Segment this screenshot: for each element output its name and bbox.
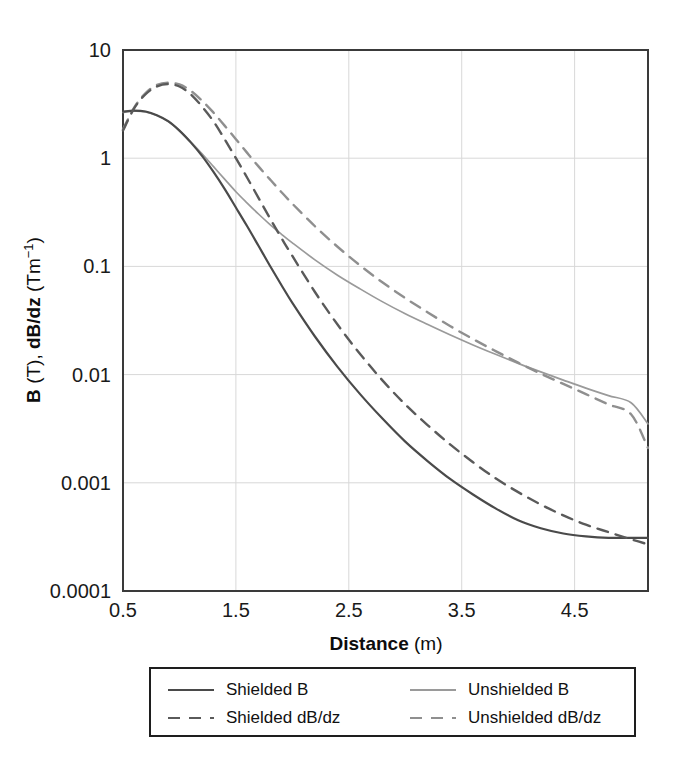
x-axis-title: Distance (m) [330,633,443,654]
x-title-distance: Distance [330,633,409,654]
legend-label: Unshielded dB/dz [468,708,601,727]
legend-label: Unshielded B [468,680,569,699]
x-tick-label: 2.5 [335,599,363,621]
y-title-unit-tm: (Tm [23,258,44,297]
svg-text:B (T), dB/dz (Tm−1): B (T), dB/dz (Tm−1) [21,237,45,403]
x-tick-label: 1.5 [222,599,250,621]
y-title-unit-t: (T), [23,349,44,389]
y-tick-label: 0.01 [72,364,111,386]
y-tick-label: 1 [100,147,111,169]
figure-container: 1010.10.010.0010.0001 0.51.52.53.54.5 B … [0,0,679,771]
y-axis-title: B (T), dB/dz (Tm−1) [21,237,45,403]
legend-label: Shielded B [226,680,308,699]
x-title-unit: (m) [414,633,442,654]
x-tick-label: 0.5 [109,599,137,621]
y-tick-label: 0.001 [61,472,111,494]
y-title-b: B [23,389,44,403]
log-line-chart: 1010.10.010.0010.0001 0.51.52.53.54.5 B … [0,0,679,771]
y-tick-label: 0.0001 [50,580,111,602]
x-tick-label: 4.5 [561,599,589,621]
legend: Shielded BUnshielded BShielded dB/dzUnsh… [150,668,635,736]
y-tick-label: 10 [89,39,111,61]
y-title-close-paren: ) [23,237,44,243]
y-tick-label: 0.1 [83,255,111,277]
x-tick-label: 3.5 [448,599,476,621]
y-title-exponent: −1 [21,243,36,258]
y-title-dbdz: dB/dz [23,297,44,349]
svg-text:Distance (m): Distance (m) [330,633,443,654]
legend-label: Shielded dB/dz [226,708,340,727]
